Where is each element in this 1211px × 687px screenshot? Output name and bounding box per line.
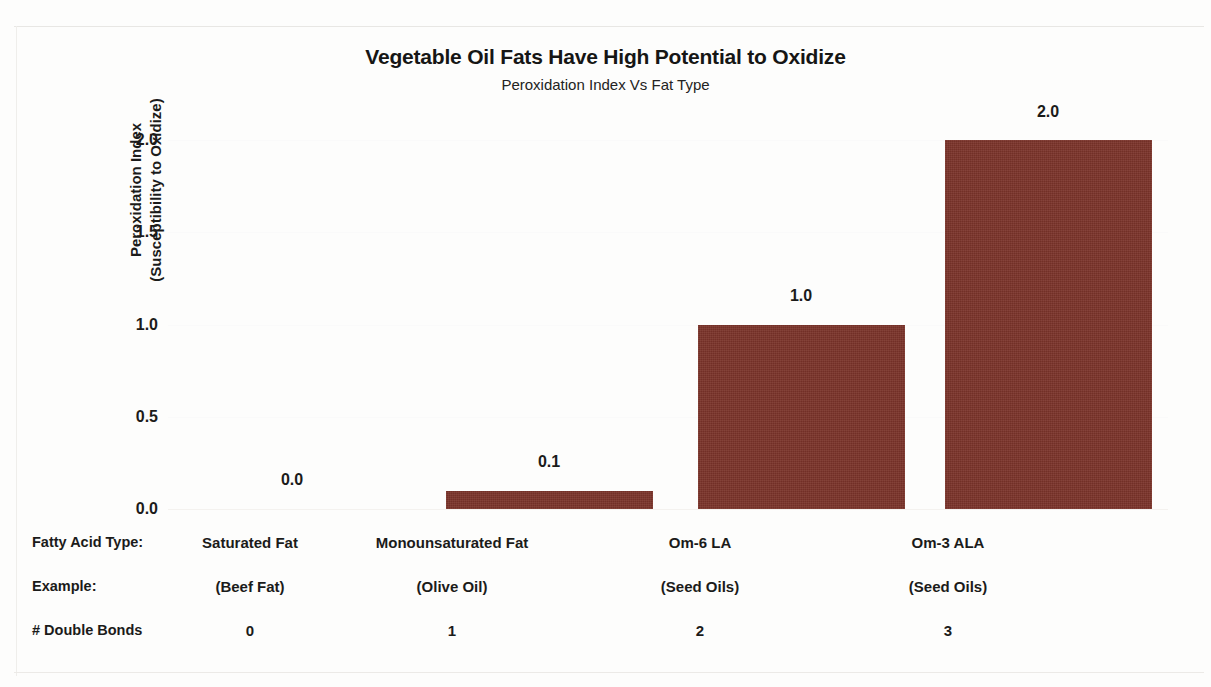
table-row-label: # Double Bonds — [32, 622, 142, 638]
chart-title: Vegetable Oil Fats Have High Potential t… — [0, 45, 1211, 69]
y-tick-label: 0.0 — [100, 500, 158, 518]
table-cell: (Seed Oils) — [909, 578, 987, 595]
chart-subtitle: Peroxidation Index Vs Fat Type — [0, 76, 1211, 93]
table-cell: (Beef Fat) — [215, 578, 284, 595]
table-cell: Monounsaturated Fat — [376, 534, 529, 551]
plot-area: 0.0 0.1 1.0 2.0 — [168, 140, 1168, 509]
table-cell: 0 — [246, 622, 254, 639]
table-row: # Double Bonds 0 1 2 3 — [0, 608, 1211, 652]
table-cell: 1 — [448, 622, 456, 639]
bar-value-label: 1.0 — [790, 287, 812, 305]
y-tick-label: 1.0 — [100, 316, 158, 334]
bar-om6-la[interactable] — [698, 325, 905, 510]
table-cell: Om-3 ALA — [912, 534, 985, 551]
bar-value-label: 0.1 — [538, 453, 560, 471]
table-row-label: Fatty Acid Type: — [32, 534, 143, 550]
page-edge-bottom — [14, 672, 1204, 673]
y-tick-label: 1.5 — [100, 223, 158, 241]
y-tick-label: 0.5 — [100, 408, 158, 426]
page-edge-top — [14, 26, 1204, 27]
table-cell: Saturated Fat — [202, 534, 298, 551]
y-axis-ticks: 2.0 1.5 1.0 0.5 0.0 — [100, 140, 158, 509]
bar-value-label: 0.0 — [281, 471, 303, 489]
bar-monounsaturated-fat[interactable] — [446, 491, 653, 510]
table-row: Fatty Acid Type: Saturated Fat Monounsat… — [0, 520, 1211, 564]
bar-value-label: 2.0 — [1037, 103, 1059, 121]
bar-om3-ala[interactable] — [945, 140, 1152, 509]
table-cell: (Olive Oil) — [417, 578, 488, 595]
table-cell: 2 — [696, 622, 704, 639]
chart-canvas: Vegetable Oil Fats Have High Potential t… — [0, 0, 1211, 687]
table-cell: (Seed Oils) — [661, 578, 739, 595]
table-row: Example: (Beef Fat) (Olive Oil) (Seed Oi… — [0, 564, 1211, 608]
x-axis-baseline — [168, 509, 1168, 510]
category-table: Fatty Acid Type: Saturated Fat Monounsat… — [0, 520, 1211, 652]
table-row-label: Example: — [32, 578, 96, 594]
table-cell: Om-6 LA — [669, 534, 732, 551]
table-cell: 3 — [944, 622, 952, 639]
y-tick-label: 2.0 — [100, 131, 158, 149]
